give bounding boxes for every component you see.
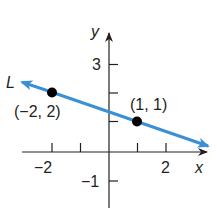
line-l bbox=[22, 82, 47, 90]
point-neg2-2 bbox=[47, 88, 57, 98]
coordinate-plane: y x L 3 −1 −2 2 (−2, 2) (1, 1) bbox=[0, 0, 217, 217]
line-l-right bbox=[47, 91, 208, 147]
x-axis-label: x bbox=[194, 159, 204, 176]
tick-label-y-3: 3 bbox=[92, 56, 101, 73]
y-axis-label: y bbox=[90, 23, 100, 40]
tick-label-x-2: 2 bbox=[161, 159, 170, 176]
tick-label-x-neg2: −2 bbox=[34, 159, 52, 176]
point-label-1-1: (1, 1) bbox=[130, 96, 167, 113]
tick-label-y-neg1: −1 bbox=[81, 173, 99, 190]
point-1-1 bbox=[132, 117, 142, 127]
line-label: L bbox=[6, 74, 15, 91]
point-label-neg2-2: (−2, 2) bbox=[14, 103, 61, 120]
y-ticks bbox=[109, 65, 118, 182]
